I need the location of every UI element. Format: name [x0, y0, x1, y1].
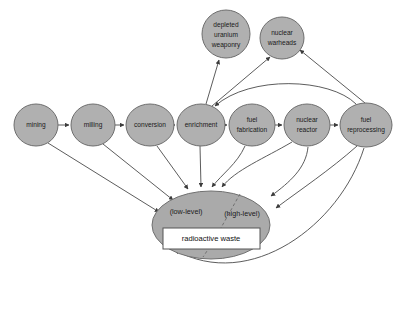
node-conversion-label: conversion	[134, 121, 166, 128]
node-milling[interactable]: milling	[71, 104, 115, 146]
edge-fuel-fabrication-to-waste	[212, 146, 245, 187]
node-depleted-uranium-weaponry-label-line3: weaponry	[211, 41, 241, 49]
node-depleted-uranium-weaponry[interactable]: depleted uranium weaponry	[202, 10, 250, 58]
radioactive-waste-label: radioactive waste	[182, 234, 241, 243]
node-depleted-uranium-weaponry-label-line1: depleted	[213, 21, 239, 29]
node-enrichment[interactable]: enrichment	[177, 104, 225, 146]
high-level-label: (high-level)	[224, 209, 260, 218]
node-nuclear-warheads-label-line2: warheads	[267, 39, 297, 46]
node-fuel-reprocessing[interactable]: fuel reprocessing	[340, 103, 392, 147]
low-level-label: (low-level)	[170, 207, 203, 216]
node-nuclear-warheads[interactable]: nuclear warheads	[260, 17, 304, 59]
node-nuclear-reactor[interactable]: nuclear reactor	[284, 104, 330, 146]
node-fuel-fabrication[interactable]: fuel fabrication	[229, 104, 275, 146]
waste-node[interactable]: (low-level) (high-level) radioactive was…	[152, 191, 270, 259]
edge-mining-to-waste	[48, 143, 159, 212]
node-conversion[interactable]: conversion	[126, 104, 174, 146]
node-nuclear-reactor-label-line1: nuclear	[296, 116, 318, 123]
node-fuel-fabrication-label-line1: fuel	[247, 116, 258, 123]
node-milling-label: milling	[84, 121, 103, 129]
edge-fuel-reprocessing-to-waste-side	[276, 146, 357, 208]
edge-conversion-to-waste	[157, 146, 188, 189]
edge-enrichment-to-waste	[200, 146, 201, 187]
node-nuclear-reactor-label-line2: reactor	[297, 126, 318, 133]
node-nuclear-warheads-label-line1: nuclear	[271, 29, 293, 36]
edge-enrichment-to-nuclear-warheads	[212, 57, 270, 106]
edge-fuel-reprocessing-to-enrichment	[215, 84, 356, 106]
nuclear-fuel-cycle-diagram: (low-level) (high-level) radioactive was…	[0, 0, 406, 309]
edge-milling-to-waste	[103, 144, 173, 200]
diagram-canvas: (low-level) (high-level) radioactive was…	[0, 0, 406, 309]
node-fuel-reprocessing-label-line1: fuel	[361, 116, 372, 123]
edge-enrichment-to-depleted-uranium-weaponry	[206, 60, 219, 104]
node-enrichment-label: enrichment	[185, 121, 218, 128]
node-mining-label: mining	[26, 121, 46, 129]
edge-fuel-reprocessing-to-nuclear-warheads	[300, 50, 365, 103]
node-depleted-uranium-weaponry-label-line2: uranium	[214, 31, 238, 38]
node-fuel-reprocessing-label-line2: reprocessing	[347, 126, 385, 134]
node-mining[interactable]: mining	[14, 104, 58, 146]
node-fuel-fabrication-label-line2: fabrication	[237, 126, 268, 133]
